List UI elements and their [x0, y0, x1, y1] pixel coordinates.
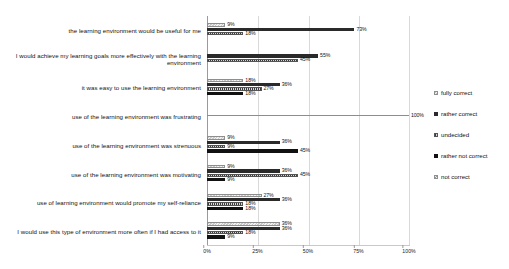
cut-off-text-fragment: ·: [448, 0, 450, 2]
bar-row: 9%36%9%45%: [207, 131, 410, 160]
bar-row: 18%36%27%18%: [207, 74, 410, 103]
legend-item-fully-correct[interactable]: fully correct: [434, 82, 508, 103]
cut-off-text-fragment: ··: [476, 0, 480, 2]
bar-value-label: 9%: [227, 234, 234, 239]
category-label: use of learning environment would promot…: [4, 199, 201, 206]
bar-fully-correct: [207, 23, 225, 26]
x-tick-label: 75%: [353, 248, 363, 254]
category-axis-labels: the learning environment would be useful…: [4, 16, 203, 246]
legend-swatch-icon: [434, 112, 438, 116]
category-label: I would use this type of environment mor…: [4, 228, 201, 235]
legend-swatch-icon: [434, 91, 438, 95]
legend-item-rather-correct[interactable]: rather correct: [434, 103, 508, 124]
bar-value-label: 73%: [356, 27, 366, 32]
bar-undecided: [207, 174, 298, 177]
cut-off-text-fragment: · ·: [70, 0, 76, 2]
bar-rather-not-correct: [207, 149, 298, 152]
category-label: use of the learning environment was stre…: [4, 142, 201, 149]
bar-value-label: 36%: [282, 139, 292, 144]
bar-undecided: [207, 145, 225, 148]
legend-label: fully correct: [441, 89, 472, 96]
bar-value-label: 36%: [282, 197, 292, 202]
x-tick-mark: [402, 245, 403, 248]
category-label: I would achieve my learning goals more e…: [4, 52, 201, 67]
legend-item-undecided[interactable]: undecided: [434, 124, 508, 145]
bar-rather-correct: [207, 198, 280, 201]
bar-value-label: 45%: [300, 148, 310, 153]
cut-off-text-fragment: ·· ·: [398, 0, 406, 2]
bar-row: 100%: [207, 102, 410, 131]
bar-value-label: 55%: [320, 53, 330, 58]
bar-undecided: [207, 202, 243, 205]
x-tick-mark: [353, 245, 354, 248]
bar-row: 9%73%18%: [207, 16, 410, 45]
legend-label: rather correct: [441, 110, 477, 117]
bar-row: 27%36%18%18%: [207, 189, 410, 218]
category-label: use of the learning environment was frus…: [4, 113, 201, 120]
bar-value-label: 27%: [264, 86, 274, 91]
bar-undecided: [207, 59, 298, 62]
legend-item-not-correct[interactable]: not correct: [434, 166, 508, 187]
category-label: use of the learning environment was moti…: [4, 171, 201, 178]
bar-value-label: 9%: [227, 177, 234, 182]
bar-not-correct: [207, 115, 409, 117]
legend-swatch-icon: [434, 175, 438, 179]
bar-rather-correct: [207, 169, 280, 172]
category-label: it was easy to use the learning environm…: [4, 84, 201, 91]
bar-undecided: [207, 231, 243, 234]
bar-row: 36%36%18%9%: [207, 217, 410, 246]
legend-label: not correct: [441, 173, 470, 180]
x-tick-mark: [303, 245, 304, 248]
legend-item-rather-not-correct[interactable]: rather not correct: [434, 145, 508, 166]
x-tick-label: 100%: [402, 248, 415, 254]
x-tick-label: 25%: [252, 248, 262, 254]
cut-off-text-fragment: ·: [196, 0, 198, 2]
bar-rather-correct: [207, 141, 280, 144]
bar-fully-correct: [207, 165, 225, 168]
bar-value-label: 100%: [411, 113, 424, 118]
x-tick-label: 0%: [203, 248, 211, 254]
bar-undecided: [207, 32, 243, 35]
bar-value-label: 45%: [300, 57, 310, 62]
bar-value-label: 18%: [245, 31, 255, 36]
cut-off-header-strip: · ····· ····: [0, 0, 509, 9]
cut-off-text-fragment: ·: [340, 0, 342, 2]
bar-value-label: 18%: [245, 206, 255, 211]
bar-row: 9%36%45%9%: [207, 160, 410, 189]
plot-area: 9%73%18%55%45%18%36%27%18%100%9%36%9%45%…: [207, 16, 410, 246]
bar-chart: · ····· ···· the learning environment wo…: [0, 0, 509, 269]
bar-value-label: 18%: [245, 91, 255, 96]
x-axis-ticks: 0%25%50%75%100%: [207, 248, 410, 260]
legend-swatch-icon: [434, 133, 438, 137]
bar-rather-not-correct: [207, 235, 225, 238]
bar-fully-correct: [207, 136, 225, 139]
bar-value-label: 45%: [300, 172, 310, 177]
bar-fully-correct: [207, 194, 262, 197]
bar-value-label: 36%: [282, 226, 292, 231]
bar-rather-not-correct: [207, 92, 243, 95]
bar-value-label: 18%: [245, 230, 255, 235]
bar-rather-not-correct: [207, 207, 243, 210]
bar-fully-correct: [207, 79, 243, 82]
bar-fully-correct: [207, 222, 280, 225]
bar-rows: 9%73%18%55%45%18%36%27%18%100%9%36%9%45%…: [207, 16, 410, 246]
x-tick-mark: [252, 245, 253, 248]
bar-rather-not-correct: [207, 178, 225, 181]
legend-label: rather not correct: [441, 152, 487, 159]
legend-swatch-icon: [434, 154, 438, 158]
x-tick-mark: [203, 245, 204, 248]
legend: fully correctrather correctundecidedrath…: [434, 82, 508, 187]
bar-rather-correct: [207, 28, 354, 31]
legend-label: undecided: [441, 131, 469, 138]
bar-rather-correct: [207, 227, 280, 230]
category-label: the learning environment would be useful…: [4, 27, 201, 34]
bar-row: 55%45%: [207, 45, 410, 74]
bar-value-label: 36%: [282, 82, 292, 87]
x-tick-label: 50%: [303, 248, 313, 254]
